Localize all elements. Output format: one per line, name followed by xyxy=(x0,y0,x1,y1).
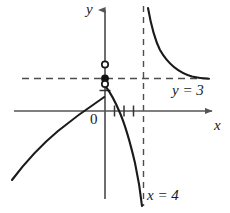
y-axis-label: y xyxy=(86,2,93,17)
x-axis-label: x xyxy=(214,118,221,133)
horizontal-asymptote-label: y = 3 xyxy=(172,83,204,98)
open-circle-left-limit xyxy=(102,61,108,67)
open-circle-right-limit xyxy=(102,81,108,87)
curve-left-branch xyxy=(12,97,104,180)
vertical-asymptote-label: x = 4 xyxy=(147,188,179,203)
curve-middle-branch xyxy=(106,87,142,207)
curve-right-branch xyxy=(148,8,209,79)
function-graph-figure: y x 0 y = 3 x = 4 xyxy=(0,0,230,213)
origin-label: 0 xyxy=(90,112,98,127)
plot-canvas xyxy=(0,0,230,213)
